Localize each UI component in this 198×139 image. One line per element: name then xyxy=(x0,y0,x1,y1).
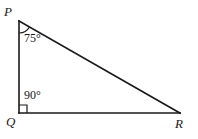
side-PR xyxy=(19,21,180,113)
angle-label-Q: 90° xyxy=(24,89,41,101)
right-angle-marker-Q xyxy=(19,105,27,113)
vertex-label-R: R xyxy=(175,117,183,130)
geometry-figure: P Q R 75° 90° xyxy=(0,0,198,139)
vertex-label-P: P xyxy=(4,5,12,18)
vertex-label-Q: Q xyxy=(6,115,15,128)
triangle-diagram xyxy=(0,0,198,139)
angle-label-P: 75° xyxy=(24,32,41,44)
